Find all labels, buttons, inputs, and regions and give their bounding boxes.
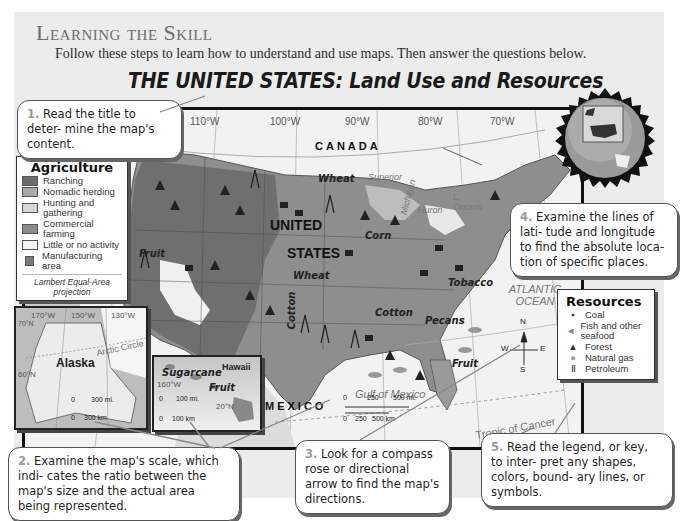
alaska-inset: 170°W 150°W 130°W 70°N 60°N Alaska Arcti… [14,306,148,430]
map-title: THE UNITED STATES: Land Use and Resource… [128,68,603,93]
canada-label: CANADA [315,140,381,152]
crop-label-corn: Corn [365,230,391,241]
us-label-line2: STATES [287,245,340,261]
alaska-scale-zero: 0 [71,414,75,421]
scale-mi-zero: 0 [343,394,347,401]
hawaii-longitude: 160°W [157,380,181,389]
compass-e: E [540,344,545,353]
lake-ontario-label: L. Ontario [453,192,483,212]
longitude-label: 110°W [190,116,219,127]
crop-label-wheat: Wheat [318,173,354,184]
longitude-label: 70°W [490,116,515,127]
section-heading: Learning the Skill [36,20,212,46]
hawaii-scale-zero: 0 [159,415,163,422]
longitude-label: 80°W [418,116,443,127]
hawaii-scale-km: 100 km [172,415,195,422]
hawaii-inset: Sugarcane Hawaii Fruit 160°W 20°N 0 100 … [152,355,262,432]
agriculture-legend: Agriculture Ranching Nomadic herding Hun… [16,156,128,301]
longitude-label: 100°W [270,116,300,127]
hawaii-scale-zero: 0 [159,395,163,402]
longitude-label: 90°W [345,116,370,127]
lake-huron-label: Huron [418,205,443,215]
crop-label-fruit: Fruit [139,248,165,259]
alaska-scale-km: 300 km [84,414,107,421]
atlantic-ocean-label: ATLANTIC OCEAN [505,283,565,307]
alaska-longitude: 150°W [71,311,95,320]
alaska-longitude: 130°W [111,311,135,320]
alaska-label: Alaska [56,356,95,370]
alaska-longitude: 170°W [31,311,55,320]
projection-note: Lambert Equal-Area projection [22,274,122,297]
alaska-latitude-top: 70°N [18,320,34,327]
lake-superior-label: Superior [368,172,402,182]
fish-icon: ◄ [566,326,575,336]
legend-item-little: Little or no activity [22,240,122,250]
agriculture-legend-title: Agriculture [22,160,122,175]
crop-label-cotton: Cotton [375,307,413,318]
legend-item-natural-gas: ●Natural gas [566,353,646,363]
legend-item-coal: ▪Coal [566,310,646,320]
legend-item-manufacturing: Manufacturing area [22,251,122,271]
legend-item-petroleum: ⅡPetroleum [566,364,646,374]
intro-text: Follow these steps to learn how to under… [55,46,586,62]
callout-4: 4. Examine the lines of lati- tude and l… [510,203,678,277]
resources-legend-title: Resources [566,294,646,309]
legend-item-forest: ▲Forest [566,342,646,352]
petroleum-icon: Ⅱ [566,364,580,374]
legend-item-hunting: Hunting and gathering [22,198,122,218]
swatch-ranching [22,176,38,186]
compass-w: W [501,344,509,353]
crop-label-cotton: Cotton [286,292,297,330]
forest-icon: ▲ [566,342,580,352]
globe-locator-icon [555,88,655,188]
us-label-line1: UNITED [270,217,322,233]
legend-item-fish: ◄Fish and other seafood [566,321,646,341]
callout-5: 5. Read the legend, or key, to inter- pr… [481,433,673,507]
crop-label-wheat: Wheat [293,270,329,281]
alaska-scale-zero: 0 [71,396,75,403]
callout-1: 1. Read the title to deter- mine the map… [17,100,182,159]
alaska-scale-mi: 300 mi. [91,396,114,403]
swatch-little [22,240,38,250]
hawaii-latitude: 20°N [216,402,234,411]
scale-mi-500: 500 mi. [393,394,416,401]
hawaii-label: Hawaii [222,362,251,372]
mexico-label: MEXICO [265,400,326,412]
compass-n: N [520,317,526,326]
callout-2: 2. Examine the map's scale, which indi- … [8,447,240,521]
scale-km-500: 500 km [372,415,395,422]
hawaii-scale-mi: 100 mi. [176,395,199,402]
compass-s: S [520,365,525,374]
resources-legend: Resources ▪Coal ◄Fish and other seafood … [557,289,655,380]
natural-gas-icon: ● [566,353,580,363]
alaska-latitude: 60°N [18,370,36,379]
scale-mi-250: 250 [367,394,379,401]
swatch-commercial [22,224,38,234]
swatch-manufacturing [25,256,34,266]
crop-label-sugarcane: Sugarcane [162,367,222,378]
coal-icon: ▪ [566,310,580,320]
scale-km-zero: 0 [343,415,347,422]
legend-item-ranching: Ranching [22,176,122,186]
crop-label-tobacco: Tobacco [448,277,493,288]
crop-label-fruit: Fruit [452,358,478,369]
crop-label-pecans: Pecans [425,315,465,326]
callout-3: 3. Look for a compass rose or directiona… [295,440,450,514]
swatch-hunting [22,203,38,213]
scale-km-250: 250 [355,415,367,422]
swatch-nomadic [22,187,38,197]
legend-item-commercial: Commercial farming [22,219,122,239]
crop-label-fruit: Fruit [209,382,235,393]
legend-item-nomadic-herding: Nomadic herding [22,187,122,197]
